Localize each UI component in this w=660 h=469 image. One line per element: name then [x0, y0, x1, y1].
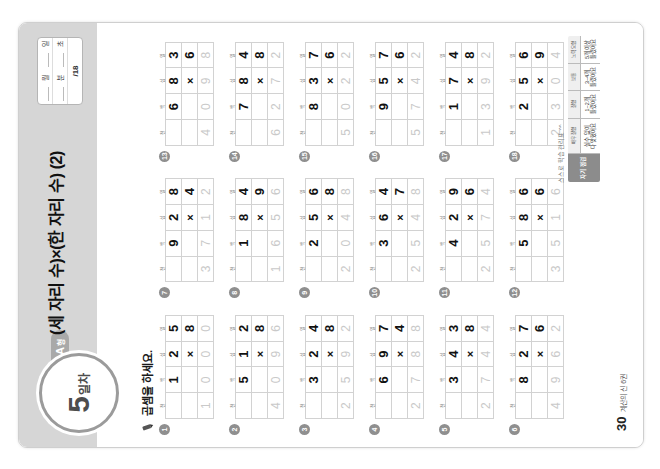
answer-digit[interactable]: 2 [338, 316, 354, 342]
answer-digit[interactable]: 5 [338, 119, 354, 145]
self-check-desc[interactable]: 1~2개틀렸어요 [580, 91, 601, 119]
answer-digit[interactable]: 8 [408, 316, 424, 342]
answer-digit[interactable]: 8 [338, 179, 354, 205]
answer-digit[interactable]: 2 [338, 393, 354, 419]
multiplier-row: 00×8 [462, 316, 478, 419]
multiplicand-row: 0174 [446, 42, 462, 145]
answer-digit[interactable]: 7 [268, 68, 284, 94]
answer-digit[interactable]: 9 [268, 341, 284, 367]
answer-digit[interactable]: 4 [268, 393, 284, 419]
answer-digit[interactable]: 5 [338, 367, 354, 393]
cell-empty: 0 [252, 393, 268, 419]
answer-digit[interactable]: 0 [198, 341, 214, 367]
answer-digit[interactable]: 8 [198, 42, 214, 68]
answer-digit[interactable]: 2 [478, 42, 494, 68]
answer-digit[interactable]: 0 [338, 230, 354, 256]
place-value-header: 천 [297, 256, 306, 282]
answer-digit[interactable]: 0 [198, 367, 214, 393]
answer-digit[interactable]: 3 [548, 256, 564, 282]
answer-digit[interactable]: 1 [268, 256, 284, 282]
answer-digit[interactable]: 4 [338, 205, 354, 231]
answer-digit[interactable]: 2 [478, 393, 494, 419]
answer-digit[interactable]: 2 [478, 256, 494, 282]
answer-digit[interactable]: 6 [268, 230, 284, 256]
self-check-desc[interactable]: 3~4개틀렸어요 [580, 63, 601, 91]
answer-digit[interactable]: 7 [408, 367, 424, 393]
day-field[interactable] [41, 54, 49, 68]
answer-digit[interactable]: 9 [198, 68, 214, 94]
answer-digit[interactable]: 5 [268, 205, 284, 231]
answer-digit[interactable]: 2 [408, 393, 424, 419]
answer-digit[interactable]: 2 [408, 42, 424, 68]
minute-field[interactable] [56, 88, 64, 102]
second-field[interactable] [56, 54, 64, 68]
cell-empty: 0 [392, 367, 408, 393]
answer-digit[interactable]: 7 [198, 230, 214, 256]
multiplier-digit: 7 [392, 179, 408, 205]
answer-digit[interactable]: 0 [338, 94, 354, 120]
multiplier-row: 00×7 [392, 179, 408, 282]
answer-digit[interactable]: 3 [478, 94, 494, 120]
answer-digit[interactable]: 2 [338, 256, 354, 282]
cell-empty: 0 [376, 393, 392, 419]
answer-digit[interactable]: 1 [198, 205, 214, 231]
answer-digit[interactable]: 2 [338, 42, 354, 68]
answer-digit[interactable]: 4 [548, 393, 564, 419]
answer-row: 3516 [548, 179, 564, 282]
answer-digit[interactable]: 1 [548, 205, 564, 231]
problem-item: 9천백십일025600×82048 [297, 170, 365, 301]
vertical-multiplication: 천백십일042900×62574 [437, 178, 494, 282]
answer-digit[interactable]: 0 [268, 367, 284, 393]
answer-digit[interactable]: 6 [268, 316, 284, 342]
answer-digit[interactable]: 4 [198, 119, 214, 145]
answer-digit[interactable]: 5 [408, 119, 424, 145]
answer-digit[interactable]: 7 [478, 367, 494, 393]
answer-digit[interactable]: 4 [478, 179, 494, 205]
answer-digit[interactable]: 4 [408, 68, 424, 94]
answer-digit[interactable]: 2 [268, 94, 284, 120]
answer-digit[interactable]: 6 [548, 341, 564, 367]
answer-digit[interactable]: 9 [478, 68, 494, 94]
answer-digit[interactable]: 1 [478, 119, 494, 145]
multiplicand-digit: 7 [376, 316, 392, 342]
answer-digit[interactable]: 8 [408, 341, 424, 367]
answer-digit[interactable]: 5 [408, 230, 424, 256]
month-field[interactable] [41, 88, 49, 102]
answer-digit[interactable]: 2 [408, 256, 424, 282]
answer-digit[interactable]: 3 [198, 256, 214, 282]
answer-digit[interactable]: 9 [338, 341, 354, 367]
answer-digit[interactable]: 4 [408, 205, 424, 231]
place-value-header: 백 [227, 367, 236, 393]
multiplicand-digit: 8 [516, 367, 532, 393]
answer-digit[interactable]: 1 [198, 393, 214, 419]
place-value-header: 십 [367, 205, 376, 231]
answer-digit[interactable]: 7 [478, 205, 494, 231]
answer-digit[interactable]: 5 [548, 230, 564, 256]
multiplicand-row: 0928 [166, 179, 182, 282]
answer-digit[interactable]: 6 [268, 119, 284, 145]
self-check-block: 스스로 학습 관리표 ^^ 자기 점검매우 잘함잘함보통노력 요함실수 없이다 … [556, 35, 602, 183]
self-check-desc[interactable]: 5개 이상틀렸어요 [580, 36, 601, 64]
date-score-box[interactable]: 월 일 분 초 /18 [37, 37, 83, 105]
cell-empty: 0 [252, 119, 268, 145]
multiplicand-row: 0512 [236, 316, 252, 419]
answer-digit[interactable]: 0 [198, 316, 214, 342]
problem-number: 8 [229, 287, 240, 298]
self-check-desc[interactable]: 실수 없이다 맞혔어요 [580, 118, 601, 153]
answer-digit[interactable]: 8 [408, 179, 424, 205]
answer-digit[interactable]: 9 [548, 367, 564, 393]
multiplier-digit: 8 [322, 179, 338, 205]
answer-digit[interactable]: 2 [198, 179, 214, 205]
answer-digit[interactable]: 7 [408, 94, 424, 120]
place-value-header: 십 [227, 341, 236, 367]
answer-digit[interactable]: 5 [478, 230, 494, 256]
answer-digit[interactable]: 4 [478, 316, 494, 342]
answer-digit[interactable]: 2 [548, 316, 564, 342]
problem-number: 4 [369, 424, 380, 435]
multiplier-digit: 6 [182, 42, 198, 68]
answer-digit[interactable]: 6 [268, 179, 284, 205]
answer-digit[interactable]: 2 [338, 68, 354, 94]
answer-digit[interactable]: 2 [268, 42, 284, 68]
answer-digit[interactable]: 4 [478, 341, 494, 367]
answer-digit[interactable]: 0 [198, 94, 214, 120]
